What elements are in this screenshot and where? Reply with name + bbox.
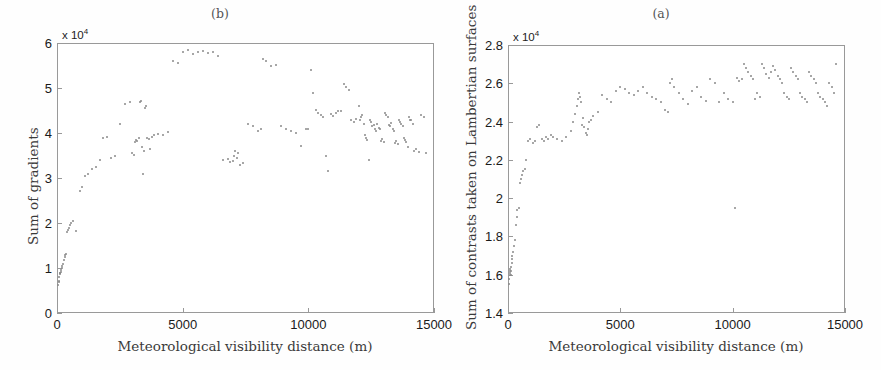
scatter-point [510, 270, 512, 272]
scatter-point [678, 92, 680, 94]
x-tick-mark [57, 308, 58, 313]
scatter-point [265, 60, 267, 62]
scatter-point [579, 96, 581, 98]
x-tick-label: 5000 [606, 317, 635, 332]
panel-a-y-axis-title: Sum of contrasts taken on Lambertian sur… [463, 5, 479, 330]
scatter-point [110, 157, 112, 159]
scatter-point [750, 75, 752, 77]
scatter-point [375, 130, 377, 132]
scatter-point [552, 136, 554, 138]
scatter-point [129, 101, 131, 103]
panel-a-x-axis-title: Meteorological visibility distance (m) [549, 338, 804, 354]
scatter-point [99, 159, 101, 161]
scatter-point [79, 190, 81, 192]
scatter-point [615, 90, 617, 92]
y-tick-mark [508, 83, 513, 84]
scatter-point [777, 75, 779, 77]
x-tick-label: 0 [504, 317, 511, 332]
x-tick-mark [508, 308, 509, 313]
scatter-point [61, 267, 63, 269]
scatter-point [202, 50, 204, 52]
scatter-point [368, 159, 370, 161]
y-tick-mark [508, 45, 513, 46]
scatter-point [81, 186, 83, 188]
scatter-point [624, 88, 626, 90]
scatter-point [355, 118, 357, 120]
scatter-point [343, 83, 345, 85]
scatter-point [325, 155, 327, 157]
scatter-point [370, 121, 372, 123]
scatter-point [597, 111, 599, 113]
x-tick-mark [620, 308, 621, 313]
scatter-point [383, 141, 385, 143]
scatter-point [63, 259, 65, 261]
y-tick-mark [508, 236, 513, 237]
scatter-point [262, 58, 264, 60]
scatter-point [300, 145, 302, 147]
scatter-point [705, 100, 707, 102]
scatter-point [124, 103, 126, 105]
scatter-point [64, 256, 66, 258]
scatter-point [162, 134, 164, 136]
scatter-point [543, 140, 545, 142]
y-tick-mark [57, 223, 62, 224]
scatter-point [67, 229, 69, 231]
scatter-point [295, 132, 297, 134]
scatter-point [207, 52, 209, 54]
scatter-point [133, 154, 135, 156]
panel-b-y-exponent: x 104 [62, 27, 88, 41]
scatter-point [348, 89, 350, 91]
scatter-point [149, 148, 151, 150]
scatter-point [817, 92, 819, 94]
scatter-point [804, 98, 806, 100]
scatter-point [393, 130, 395, 132]
scatter-point [577, 98, 579, 100]
scatter-point [119, 123, 121, 125]
scatter-point [696, 86, 698, 88]
scatter-point [808, 71, 810, 73]
scatter-point [572, 121, 574, 123]
panel-a-y-exponent: x 104 [513, 29, 539, 43]
scatter-point [172, 60, 174, 62]
scatter-point [58, 280, 60, 282]
y-tick-label: 0 [0, 306, 52, 321]
y-tick-label: 5 [0, 81, 52, 96]
scatter-point [212, 51, 214, 53]
y-tick-mark [57, 178, 62, 179]
y-tick-mark [57, 88, 62, 89]
scatter-point [588, 121, 590, 123]
scatter-point [315, 109, 317, 111]
scatter-point [590, 119, 592, 121]
scatter-point [187, 49, 189, 51]
panel-a-plot-area [508, 45, 845, 313]
scatter-point [734, 207, 736, 209]
panel-b-plot-area [57, 43, 434, 313]
scatter-point [795, 75, 797, 77]
x-tick-label: 0 [53, 317, 60, 332]
scatter-point [197, 51, 199, 53]
scatter-point [833, 92, 835, 94]
scatter-point [233, 155, 235, 157]
scatter-point [358, 105, 360, 107]
scatter-point [513, 245, 515, 247]
scatter-point [515, 224, 517, 226]
scatter-point [799, 92, 801, 94]
scatter-point [247, 123, 249, 125]
scatter-point [510, 274, 512, 276]
scatter-point [606, 98, 608, 100]
scatter-point [761, 63, 763, 65]
scatter-point [222, 159, 224, 161]
scatter-point [667, 111, 669, 113]
scatter-point [407, 146, 409, 148]
scatter-point [236, 157, 238, 159]
scatter-point [182, 51, 184, 53]
y-tick-mark [508, 160, 513, 161]
scatter-point [387, 116, 389, 118]
scatter-point [350, 119, 352, 121]
scatter-point [642, 86, 644, 88]
scatter-point [512, 251, 514, 253]
scatter-point [57, 284, 59, 286]
scatter-point [519, 182, 521, 184]
scatter-point [412, 123, 414, 125]
scatter-point [335, 112, 337, 114]
